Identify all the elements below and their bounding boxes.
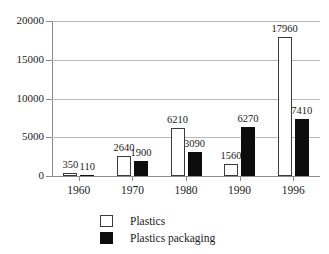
bar-1970-plastics (117, 156, 131, 176)
bar-chart-figure: 05000100001500020000 3501102640190062103… (0, 0, 329, 254)
y-tick-label: 20000 (0, 15, 44, 26)
axis-baseline (52, 176, 320, 177)
y-tick-label: 0 (0, 170, 44, 181)
bar-1970-plastics-packaging (134, 161, 148, 176)
legend-item-plastics-packaging: Plastics packaging (100, 229, 300, 246)
bar-1960-plastics-packaging (80, 175, 94, 177)
bar-1990-plastics-packaging (241, 127, 255, 176)
legend-item-plastics: Plastics (100, 212, 300, 229)
bar-1990-plastics (224, 164, 238, 176)
bar-1996-plastics-packaging (295, 119, 309, 176)
plot-area (52, 21, 320, 176)
legend-label: Plastics packaging (130, 232, 215, 244)
x-tick-label-1970: 1970 (107, 184, 157, 196)
chart-legend: PlasticsPlastics packaging (100, 212, 300, 246)
x-tick-label-1990: 1990 (215, 184, 265, 196)
bar-1960-plastics (63, 173, 77, 176)
bar-1996-plastics (278, 37, 292, 176)
bar-1980-plastics (171, 128, 185, 176)
legend-swatch-light (100, 215, 113, 227)
x-tick-label-1996: 1996 (268, 184, 318, 196)
legend-swatch-dark (100, 232, 113, 244)
bar-1980-plastics-packaging (188, 152, 202, 176)
y-tick-label: 15000 (0, 54, 44, 65)
y-tick-label: 10000 (0, 93, 44, 104)
x-tick-label-1980: 1980 (161, 184, 211, 196)
bar-group-container (52, 21, 320, 176)
legend-label: Plastics (130, 215, 165, 227)
y-tick-label: 5000 (0, 131, 44, 142)
x-tick-label-1960: 1960 (54, 184, 104, 196)
